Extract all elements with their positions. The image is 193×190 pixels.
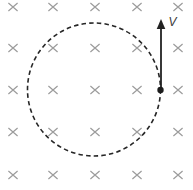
field-into-page-x-icon [132,171,141,179]
field-diagram-svg: V [0,0,193,190]
field-into-page-x-icon [132,128,141,136]
field-into-page-x-icon [90,44,99,52]
field-into-page-x-icon [132,44,141,52]
field-into-page-x-icon [8,171,17,179]
field-into-page-x-icon [173,171,182,179]
field-into-page-x-icon [132,86,141,94]
field-into-page-x-icon [48,86,57,94]
field-into-page-x-icon [48,44,57,52]
velocity-label: V [169,15,178,29]
field-into-page-x-icon [8,3,17,11]
field-into-page-x-icon [48,171,57,179]
field-into-page-x-icon [90,128,99,136]
particle-dot [157,87,163,93]
field-into-page-x-icon [173,3,182,11]
field-into-page-x-icon [132,3,141,11]
field-grid [8,3,182,179]
field-into-page-x-icon [90,171,99,179]
field-into-page-x-icon [90,86,99,94]
field-into-page-x-icon [48,3,57,11]
field-into-page-x-icon [173,128,182,136]
field-into-page-x-icon [173,86,182,94]
physics-diagram: V [0,0,193,190]
field-into-page-x-icon [8,128,17,136]
field-into-page-x-icon [48,128,57,136]
field-into-page-x-icon [8,86,17,94]
field-into-page-x-icon [90,3,99,11]
field-into-page-x-icon [173,44,182,52]
velocity-arrowhead-icon [157,19,166,29]
field-into-page-x-icon [8,44,17,52]
